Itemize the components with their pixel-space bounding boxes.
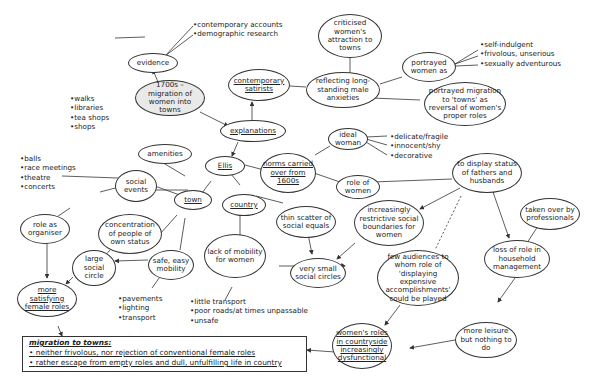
node-explanations[interactable]: explanations <box>220 120 286 142</box>
social-events-list: balls race meetings theatre concerts <box>20 154 76 191</box>
safe-mobility-list: pavements lighting transport <box>118 294 162 322</box>
amenities-list: walks libraries tea shops shops <box>70 94 109 131</box>
summary-bullet: neither frivolous, nor rejection of conv… <box>29 348 300 358</box>
node-norms[interactable]: norms carried over from 1600s <box>260 153 316 193</box>
node-town[interactable]: town <box>174 190 212 210</box>
node-very-small-circles[interactable]: very small social circles <box>290 258 346 288</box>
node-display-status[interactable]: to display status of fathers and husband… <box>452 153 522 193</box>
node-role-organiser[interactable]: role as organiser <box>20 214 70 244</box>
node-criticised-attraction[interactable]: criticised women's attraction to towns <box>318 14 382 58</box>
node-thin-scatter[interactable]: thin scatter of social equals <box>276 206 336 238</box>
node-country[interactable]: country <box>222 194 266 216</box>
summary-title: migration to towns: <box>29 338 300 348</box>
node-concentration[interactable]: concentration of people of own status <box>98 214 162 254</box>
ideal-woman-list: delicate/fragile innocent/shy decorative <box>390 132 448 160</box>
node-loss-of-role[interactable]: loss of role in household management <box>484 240 550 278</box>
node-taken-over[interactable]: taken over by professionals <box>520 198 580 230</box>
node-womens-roles-country[interactable]: women's roles in countryside increasingl… <box>332 323 392 369</box>
node-reflecting-anxieties[interactable]: reflecting long-standing male anxieties <box>306 72 380 108</box>
summary-bullet: rather escape from empty roles and dull,… <box>29 358 300 368</box>
node-evidence[interactable]: evidence <box>128 53 178 73</box>
summary-box: migration to towns: neither frivolous, n… <box>22 336 307 372</box>
node-social-events[interactable]: social events <box>115 170 157 202</box>
node-large-circle[interactable]: large social circle <box>72 250 116 286</box>
node-safe-mobility[interactable]: safe, easy mobility <box>148 250 194 280</box>
node-more-satisfying[interactable]: more satisfying female roles <box>17 281 77 317</box>
node-portrayed-migration[interactable]: portrayed migration to 'towns' as revers… <box>424 82 506 126</box>
node-portrayed-women[interactable]: portrayed women as <box>402 52 456 82</box>
node-amenities[interactable]: amenities <box>138 144 192 164</box>
node-restrictive-boundaries[interactable]: increasingly restrictive social boundari… <box>354 200 424 246</box>
node-more-leisure[interactable]: more leisure but nothing to do <box>455 322 517 358</box>
node-role-of-women[interactable]: role of women <box>336 175 380 199</box>
lack-mobility-list: little transport poor roads/at times unp… <box>190 297 308 325</box>
node-contemporary-satirists[interactable]: contemporary satirists <box>228 69 290 101</box>
portrayed-women-list: self-indulgent frivolous, unserious sexu… <box>480 40 561 68</box>
node-ellis[interactable]: Ellis <box>205 156 245 176</box>
evidence-list: contemporary accounts demographic resear… <box>193 20 283 39</box>
node-central-topic[interactable]: 1700s – migration of women into towns <box>135 80 205 116</box>
node-lack-mobility[interactable]: lack of mobility for women <box>204 234 266 278</box>
node-ideal-woman[interactable]: ideal woman <box>328 128 368 150</box>
node-few-audiences[interactable]: few audiences to whom role of 'displayin… <box>377 250 459 306</box>
